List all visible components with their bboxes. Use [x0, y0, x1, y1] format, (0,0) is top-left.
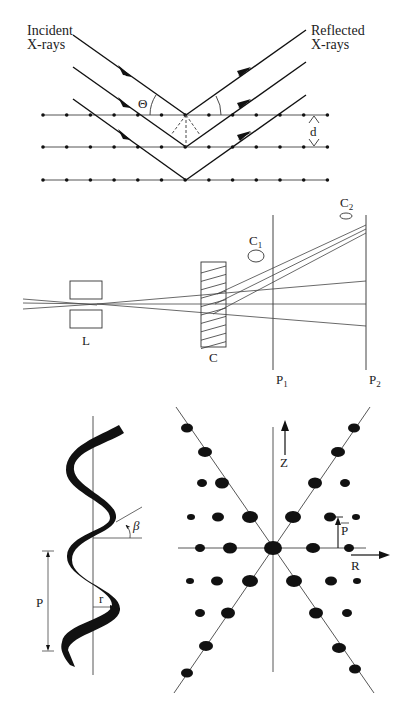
diffraction-spot	[353, 578, 361, 584]
diffraction-spot	[352, 514, 360, 520]
diffraction-spot	[221, 608, 235, 619]
diffraction-pattern: Z R P	[174, 407, 390, 693]
d-label: d	[310, 124, 317, 139]
theta-arc-left	[150, 95, 156, 115]
lattice-atom	[160, 113, 164, 117]
lattice-atom	[278, 178, 282, 182]
diffraction-spots	[181, 424, 361, 678]
lattice-atom	[89, 178, 93, 182]
lens-bottom-block	[70, 310, 102, 328]
lattice-atom	[207, 178, 211, 182]
incident-label-2: X-rays	[27, 37, 65, 52]
diffraction-spot	[211, 577, 223, 586]
spot-c2-label: C2	[340, 195, 353, 212]
beta-arc	[126, 525, 130, 538]
diffraction-spot	[309, 608, 323, 619]
diffraction-spot	[181, 424, 193, 433]
diffraction-spot	[195, 609, 205, 617]
diffraction-spot	[331, 447, 345, 457]
lattice-atom	[160, 178, 164, 182]
z-arrow-icon	[281, 420, 289, 431]
diffraction-spot	[349, 665, 361, 674]
lattice-atom	[65, 113, 69, 117]
diffraction-spot	[264, 541, 282, 555]
diffraction-spot	[308, 478, 322, 489]
diffraction-spot	[198, 447, 212, 457]
pitch-arrow-up-icon	[46, 551, 50, 557]
diffraction-spot	[332, 643, 346, 653]
plate1-label: P1	[276, 372, 288, 389]
figure-canvas: d Θ Incident X-rays Reflected X-rays L C…	[0, 0, 410, 709]
spot-c1	[248, 250, 264, 262]
bragg-diagram: d Θ Incident X-rays Reflected X-rays	[27, 23, 365, 182]
reflected-rays	[186, 30, 306, 180]
incident-label: Incident	[27, 23, 73, 38]
lattice-atom	[302, 178, 306, 182]
diffraction-spot	[242, 575, 258, 587]
pitch-label: P	[36, 595, 43, 610]
diffraction-spot	[286, 575, 302, 587]
diffraction-spot	[306, 543, 320, 553]
diffraction-spot	[223, 543, 237, 554]
beta-label: β	[132, 518, 140, 533]
lattice-atom	[231, 178, 235, 182]
helix-diagram: β P r	[36, 416, 142, 675]
pitch-arrow-down-icon	[46, 645, 50, 651]
reflected-label: Reflected	[311, 23, 365, 38]
lattice-atom	[136, 178, 140, 182]
lattice-atom	[65, 145, 69, 149]
incident-arrow-icons	[118, 65, 132, 140]
lattice-atom	[278, 145, 282, 149]
lens-label: L	[82, 333, 90, 348]
lattice-atom	[254, 145, 258, 149]
diffraction-spot	[187, 514, 195, 520]
lattice-atom	[302, 113, 306, 117]
path-difference-lines	[171, 115, 200, 147]
diffraction-spot	[285, 511, 301, 523]
lattice-atom	[89, 113, 93, 117]
plate2-label: P2	[369, 372, 381, 389]
lattice-atom	[41, 113, 45, 117]
lattice-atom	[41, 178, 45, 182]
lens-top-block	[70, 281, 102, 299]
lattice-atom	[302, 145, 306, 149]
diffraction-spot	[242, 511, 258, 523]
lattice-atom	[207, 145, 211, 149]
lattice-atom	[160, 145, 164, 149]
z-axis-label: Z	[280, 455, 288, 470]
lattice-atom	[112, 145, 116, 149]
lattice-atom	[112, 113, 116, 117]
p-vector-label: P	[341, 523, 348, 538]
diffraction-spot	[344, 544, 354, 552]
diffraction-spot	[348, 424, 360, 433]
lattice-atom	[326, 178, 330, 182]
r-axis-label: R	[351, 558, 360, 573]
apparatus-diagram: L C P1 P2 C1 C2	[23, 195, 381, 389]
lattice-atom	[65, 178, 69, 182]
spot-c1-label: C1	[249, 233, 262, 250]
theta-arc-right	[216, 96, 221, 115]
lattice-atom	[254, 178, 258, 182]
r-arrow-icon	[379, 551, 390, 559]
diffraction-spot	[197, 479, 207, 487]
crystal-label: C	[209, 350, 218, 365]
lattice-atom	[207, 113, 211, 117]
radius-label: r	[99, 591, 104, 606]
lattice-atom	[326, 145, 330, 149]
lattice-atom	[112, 178, 116, 182]
lattice-atom	[326, 113, 330, 117]
reflected-label-2: X-rays	[311, 37, 349, 52]
lattice-atom	[41, 145, 45, 149]
lattice-atom	[254, 113, 258, 117]
diffraction-spot	[342, 609, 352, 617]
diffraction-spot	[199, 641, 213, 651]
diffraction-spot	[195, 544, 205, 552]
theta-label: Θ	[138, 96, 147, 111]
spot-c2	[340, 213, 352, 219]
diffraction-spot	[186, 578, 194, 584]
diffraction-spot	[181, 669, 193, 678]
diffraction-spot	[325, 577, 337, 586]
diffraction-spot	[215, 478, 229, 489]
diffraction-spot	[212, 513, 224, 522]
lattice-atom	[89, 145, 93, 149]
